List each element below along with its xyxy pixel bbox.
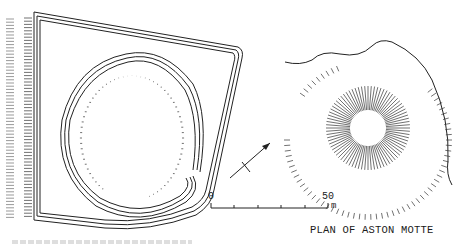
north-arrow bbox=[230, 143, 270, 178]
scale-start-label: 0 bbox=[208, 191, 214, 202]
figure-title: PLAN OF ASTON MOTTE bbox=[310, 224, 434, 236]
site-plan-drawing: .ink { fill: none; stroke: #222; stroke-… bbox=[0, 0, 474, 247]
west-bank-hachures bbox=[6, 18, 32, 217]
cropped-caption bbox=[12, 240, 192, 244]
ringwork-hachures bbox=[80, 76, 184, 197]
field-boundary-line bbox=[285, 41, 452, 185]
inner-ringwork bbox=[61, 53, 204, 217]
motte-mound bbox=[326, 86, 410, 170]
scale-bar bbox=[211, 203, 328, 208]
scale-unit-label: m bbox=[331, 201, 336, 211]
